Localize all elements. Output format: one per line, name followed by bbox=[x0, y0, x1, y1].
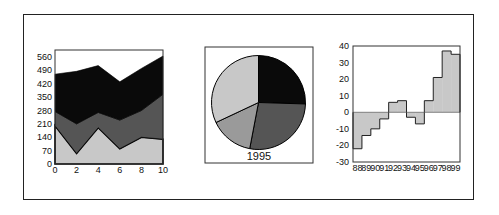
y-tick-label: 280 bbox=[37, 106, 52, 116]
step-bar-95 bbox=[415, 112, 424, 124]
y-tick-label: 490 bbox=[37, 65, 52, 75]
x-tick-label: 6 bbox=[117, 165, 122, 175]
x-tick-label: 0 bbox=[52, 165, 57, 175]
y-tick-label: 350 bbox=[37, 92, 52, 102]
pie-slices bbox=[212, 56, 306, 150]
y-tick-label: 10 bbox=[339, 91, 349, 101]
step-bar-93 bbox=[398, 101, 407, 113]
x-tick-label: 10 bbox=[158, 165, 168, 175]
step-bar-96 bbox=[424, 101, 433, 113]
x-tick-label: 4 bbox=[96, 165, 101, 175]
step-bar-88 bbox=[353, 112, 362, 148]
step-bar-97 bbox=[433, 77, 442, 112]
x-tick-label: 2 bbox=[74, 165, 79, 175]
x-tick-label: 8 bbox=[139, 165, 144, 175]
y-tick-label: 0 bbox=[344, 107, 349, 117]
figure-canvas: 0701402102803504204905600246810 1995 403… bbox=[0, 0, 499, 215]
step-bar-91 bbox=[380, 112, 389, 119]
x-tick-label: 99 bbox=[451, 163, 461, 173]
y-tick-label: -20 bbox=[336, 140, 349, 150]
y-tick-label: -10 bbox=[336, 124, 349, 134]
y-tick-label: 70 bbox=[42, 146, 52, 156]
y-tick-label: 0 bbox=[47, 159, 52, 169]
y-tick-label: 420 bbox=[37, 79, 52, 89]
y-tick-label: 210 bbox=[37, 119, 52, 129]
step-bar-99 bbox=[451, 54, 460, 112]
pie-caption: 1995 bbox=[247, 150, 271, 162]
y-tick-label: 560 bbox=[37, 52, 52, 62]
step-bar-94 bbox=[407, 112, 416, 117]
y-tick-label: 20 bbox=[339, 74, 349, 84]
step-bar-chart: 403020100-10-20-308889909192939495969798… bbox=[336, 41, 461, 173]
y-tick-label: 30 bbox=[339, 58, 349, 68]
step-bar-92 bbox=[389, 102, 398, 112]
step-bar-90 bbox=[371, 112, 380, 129]
pie-slice-1 bbox=[259, 56, 306, 104]
stacked-area-chart: 0701402102803504204905600246810 bbox=[37, 50, 168, 175]
step-bar-89 bbox=[362, 112, 371, 135]
step-bar-98 bbox=[442, 51, 451, 112]
pie-chart: 1995 bbox=[205, 47, 313, 163]
y-tick-label: 140 bbox=[37, 132, 52, 142]
pie-slice-2 bbox=[250, 103, 306, 150]
y-tick-label: 40 bbox=[339, 41, 349, 51]
y-tick-label: -30 bbox=[336, 157, 349, 167]
